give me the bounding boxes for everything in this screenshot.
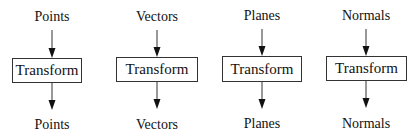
transform-box-planes: Transform [222, 56, 302, 82]
output-label-normals: Normals [342, 116, 390, 132]
arrowhead-out-planes [259, 99, 266, 109]
arrowhead-in-points [49, 48, 56, 58]
transform-box-points: Transform [12, 58, 82, 83]
input-label-planes: Planes [244, 8, 281, 24]
transform-label: Transform [231, 61, 294, 78]
output-label-vectors: Vectors [136, 117, 178, 133]
transform-box-vectors: Transform [116, 57, 198, 82]
output-label-points: Points [34, 117, 69, 133]
arrowhead-out-points [49, 100, 56, 110]
transform-label: Transform [126, 61, 189, 78]
arrowhead-in-planes [259, 46, 266, 56]
arrowhead-out-vectors [154, 99, 161, 109]
transform-box-normals: Transform [326, 56, 407, 81]
arrowhead-out-normals [363, 98, 370, 108]
arrowhead-in-vectors [154, 47, 161, 57]
output-label-planes: Planes [244, 116, 281, 132]
input-label-points: Points [34, 9, 69, 25]
input-label-normals: Normals [342, 8, 390, 24]
arrowhead-in-normals [363, 46, 370, 56]
input-label-vectors: Vectors [136, 9, 178, 25]
transform-label: Transform [16, 62, 79, 79]
transform-label: Transform [335, 60, 398, 77]
